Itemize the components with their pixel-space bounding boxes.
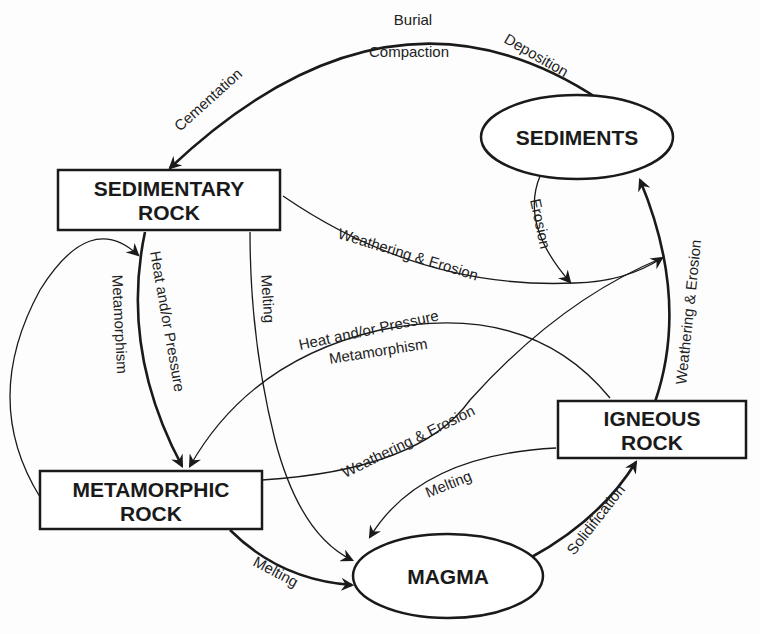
cementation-label: Cementation	[171, 65, 246, 135]
sedimentary-rock-node: SEDIMENTARY ROCK	[58, 170, 280, 230]
solidification-label: Solidification	[563, 481, 628, 558]
ign-melting-label: Melting	[423, 467, 474, 501]
met-melting-label: Melting	[251, 553, 302, 591]
sediments-node: SEDIMENTS	[481, 95, 673, 179]
deposition-label: Deposition	[502, 30, 572, 80]
sedimentary-label-line2: ROCK	[138, 201, 200, 224]
burial-label: Burial	[394, 11, 432, 28]
metamorphic-label-line1: METAMORPHIC	[72, 478, 229, 501]
metamorphic-label-line2: ROCK	[120, 502, 182, 525]
magma-label: MAGMA	[407, 565, 489, 588]
erosion-label: Erosion	[527, 197, 554, 250]
compaction-label: Compaction	[369, 43, 449, 60]
igneous-weathering-arrow	[640, 180, 669, 402]
metamorphic-rock-node: METAMORPHIC ROCK	[40, 471, 262, 529]
igneous-label-line1: IGNEOUS	[604, 407, 701, 430]
igneous-label-line2: ROCK	[621, 431, 683, 454]
sed-heat-label: Heat and/or Pressure	[147, 250, 189, 393]
sediments-label: SEDIMENTS	[516, 126, 639, 149]
sedimentary-label-line1: SEDIMENTARY	[94, 177, 245, 200]
sed-melting-label: Melting	[258, 274, 278, 323]
sed-weathering-label: Weathering & Erosion	[336, 225, 480, 284]
ign-melting-arrow	[370, 448, 556, 537]
igneous-rock-node: IGNEOUS ROCK	[558, 401, 746, 458]
rock-cycle-diagram: SEDIMENTS SEDIMENTARY ROCK METAMORPHIC R…	[0, 0, 760, 634]
sed-metamorphism-label: Metamorphism	[109, 274, 131, 374]
met-weathering-label: Weathering & Erosion	[339, 402, 477, 481]
ign-weathering-label: Weathering & Erosion	[672, 239, 704, 386]
magma-node: MAGMA	[353, 534, 543, 618]
